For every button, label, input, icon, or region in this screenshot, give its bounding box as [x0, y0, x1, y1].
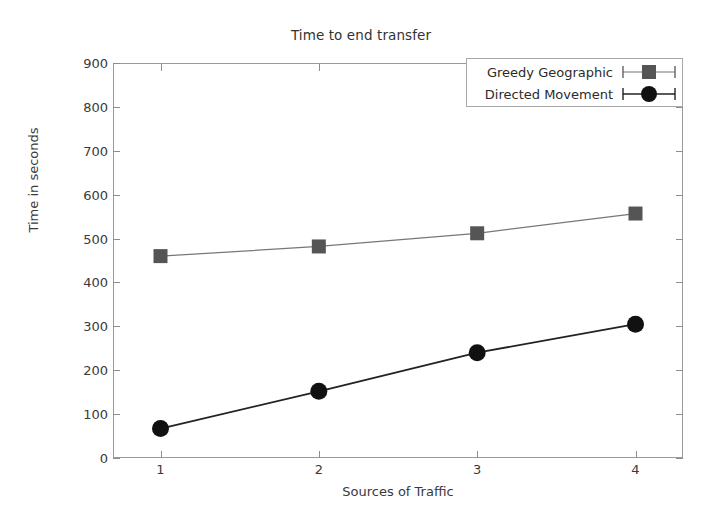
y-axis-tick-label: 100 [64, 407, 108, 422]
y-axis-tick-label: 400 [64, 275, 108, 290]
data-point-circle [469, 344, 486, 361]
y-axis-tick-label: 500 [64, 231, 108, 246]
data-point-circle [627, 316, 644, 333]
y-axis-tick-label: 300 [64, 319, 108, 334]
x-axis-tick-label: 4 [616, 462, 656, 477]
series-directed-movement [152, 316, 644, 437]
y-axis-tick-mark [676, 458, 683, 459]
legend: Greedy Geographic Directed Movement [466, 58, 683, 107]
y-axis-tick-label: 900 [64, 56, 108, 71]
data-point-square [629, 207, 643, 221]
chart-title: Time to end transfer [0, 27, 722, 43]
series-line [161, 214, 636, 257]
circle-marker-icon [619, 83, 679, 105]
y-axis-tick-label: 800 [64, 99, 108, 114]
data-point-circle [152, 420, 169, 437]
data-point-circle [310, 383, 327, 400]
x-axis-tick-label: 1 [141, 462, 181, 477]
data-point-square [312, 239, 326, 253]
y-axis-tick-label: 700 [64, 143, 108, 158]
y-axis-tick-label: 200 [64, 363, 108, 378]
data-point-square [154, 249, 168, 263]
x-axis-title: Sources of Traffic [113, 484, 683, 499]
square-marker-icon [619, 61, 679, 83]
y-axis-tick-label: 0 [64, 451, 108, 466]
legend-label: Greedy Geographic [467, 65, 619, 80]
series-line [161, 324, 636, 428]
legend-label: Directed Movement [467, 87, 619, 102]
x-axis-tick-label: 3 [457, 462, 497, 477]
legend-entry-directed-movement: Directed Movement [467, 83, 684, 105]
series-greedy-geographic [154, 207, 643, 264]
chart-container: Time to end transfer Time in seconds Sou… [0, 0, 722, 522]
data-point-square [470, 226, 484, 240]
y-axis-tick-mark [113, 458, 120, 459]
legend-entry-greedy-geographic: Greedy Geographic [467, 61, 684, 83]
y-axis-tick-labels: 0100200300400500600700800900 [58, 0, 108, 522]
y-axis-title-text: Time in seconds [26, 30, 41, 330]
y-axis-tick-label: 600 [64, 187, 108, 202]
x-axis-tick-label: 2 [299, 462, 339, 477]
data-series-layer [113, 63, 683, 458]
